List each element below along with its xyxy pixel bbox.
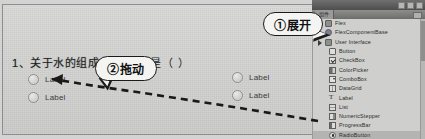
radio-option[interactable]: Label (232, 70, 270, 85)
label-icon (329, 95, 336, 102)
radiobutton-icon (329, 132, 336, 139)
radio-group-left: Label Label (28, 72, 66, 108)
combobox-icon (329, 76, 336, 83)
maximize-icon[interactable] (407, 2, 414, 9)
tree-item-user-interface[interactable]: User Interface (313, 38, 425, 47)
tree-item-numericstepper[interactable]: NumericStepper (313, 112, 425, 121)
radio-option[interactable]: Label (232, 88, 270, 103)
question-number: 1、 (12, 57, 30, 69)
button-icon (329, 48, 336, 55)
tree-item-label: List (339, 103, 348, 112)
tree-item-label: ComboBox (339, 75, 367, 84)
tree-item-label: CheckBox (339, 56, 365, 65)
tree-item-label: RadioButton (339, 131, 370, 139)
tree-item-label: FlexComponentBase (335, 28, 388, 37)
tree-item-radiobutton[interactable]: RadioButton (313, 131, 425, 139)
components-panel: 组件 Flex FlexComponentBase User Interface… (312, 0, 425, 139)
panel-titlebar (312, 0, 425, 10)
tree-item-list[interactable]: List (313, 103, 425, 112)
tree-item-flex[interactable]: Flex (313, 19, 425, 28)
tree-item-button[interactable]: Button (313, 47, 425, 56)
scrollbar-thumb[interactable] (421, 21, 425, 61)
window-controls (398, 2, 423, 9)
radio-button-icon[interactable] (232, 90, 243, 101)
radio-option[interactable]: Label (28, 72, 66, 87)
numericstepper-icon (329, 113, 336, 120)
radio-option-label: Label (45, 93, 66, 102)
radio-group-right: Label Label (232, 70, 270, 106)
tree-item-progressbar[interactable]: ProgressBar (313, 121, 425, 130)
callout-drag: ②拖动 (95, 56, 157, 81)
tree-item-label: Flex (335, 19, 346, 28)
panel-menu-icon[interactable] (413, 12, 422, 19)
tree-item-label: NumericStepper (339, 112, 380, 121)
close-icon[interactable] (416, 2, 423, 9)
tree-item-label: ProgressBar (339, 121, 371, 130)
callout-expand: ①展开 (263, 12, 323, 36)
radio-option[interactable]: Label (28, 90, 66, 105)
progressbar-icon (329, 122, 336, 129)
tree-item-colorpicker[interactable]: ColorPicker (313, 65, 425, 74)
radio-button-icon[interactable] (232, 72, 243, 83)
folder-icon (325, 20, 332, 27)
radio-option-label: Label (249, 73, 270, 82)
tree-item-label: Label (339, 94, 353, 103)
colorpicker-icon (329, 67, 336, 74)
minimize-icon[interactable] (398, 2, 405, 9)
list-icon (329, 104, 336, 111)
radio-button-icon[interactable] (28, 74, 39, 85)
screenshot-root: 1、关于水的组成， 是（ ） Label Label Label Label ①… (0, 0, 425, 139)
panel-scrollbar[interactable] (420, 19, 425, 139)
tree-item-label: Button (339, 47, 356, 56)
radio-option-label: Label (249, 91, 270, 100)
radio-option-label: Label (45, 75, 66, 84)
radio-button-icon[interactable] (28, 92, 39, 103)
tree-item-label: DataGrid (339, 84, 362, 93)
checkbox-icon (329, 57, 336, 64)
tree-item-label: ColorPicker (339, 66, 369, 75)
datagrid-icon (329, 85, 336, 92)
tree-item-checkbox[interactable]: CheckBox (313, 56, 425, 65)
tree-item-label: User Interface (335, 38, 371, 47)
tree-item-combobox[interactable]: ComboBox (313, 75, 425, 84)
tree-item-label[interactable]: Label (313, 93, 425, 102)
